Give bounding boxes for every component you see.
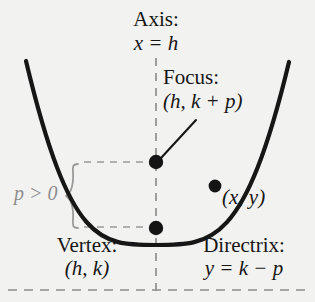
distance-label: p > 0: [14, 183, 58, 204]
directrix-label: Directrix: y = k − p: [178, 234, 310, 280]
focus-label-coords: (h, k + p): [163, 90, 295, 112]
focus-label-title: Focus:: [163, 66, 295, 88]
focus-point-dot: [149, 155, 163, 169]
curve-point-label: (x, y): [222, 186, 265, 208]
vertex-label: Vertex: (h, k): [22, 234, 152, 280]
directrix-label-title: Directrix:: [178, 234, 310, 256]
vertex-label-coords: (h, k): [22, 257, 152, 279]
focus-leader-line: [161, 120, 196, 158]
axis-label: Axis: x = h: [106, 8, 206, 55]
parabola-diagram: Axis: x = h Focus: (h, k + p) Vertex: (h…: [0, 0, 315, 302]
curve-point-dot: [209, 180, 222, 193]
axis-label-equation: x = h: [106, 32, 206, 54]
focus-label: Focus: (h, k + p): [163, 66, 295, 113]
directrix-label-equation: y = k − p: [178, 257, 310, 279]
vertex-label-title: Vertex:: [22, 234, 152, 256]
axis-label-title: Axis:: [106, 8, 206, 30]
